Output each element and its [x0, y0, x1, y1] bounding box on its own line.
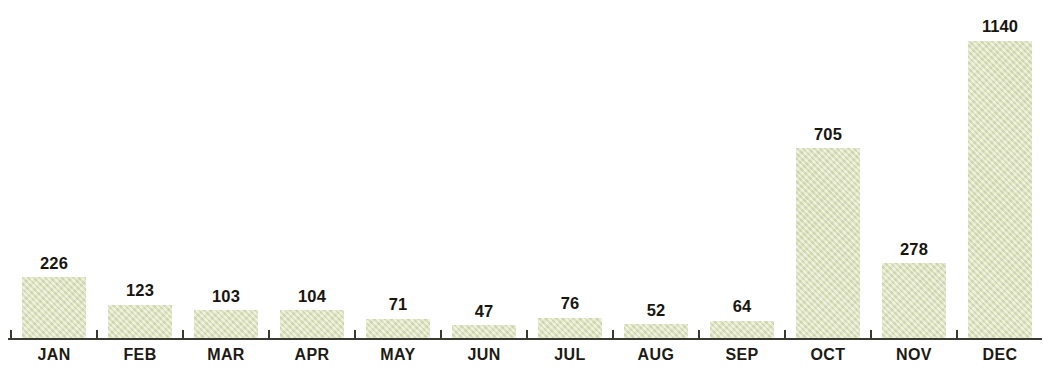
- x-axis-tick-label: SEP: [710, 345, 774, 366]
- bar-value-label: 47: [475, 303, 494, 320]
- bar-group: 278: [882, 18, 946, 338]
- x-axis-tick: [612, 330, 614, 338]
- x-axis-tick-label: MAY: [366, 345, 430, 366]
- bar-value-label: 103: [212, 288, 240, 305]
- bar-value-label: 705: [814, 126, 842, 143]
- bar-group: 52: [624, 18, 688, 338]
- bar-group: 104: [280, 18, 344, 338]
- bar-group: 64: [710, 18, 774, 338]
- bar-rect[interactable]: [968, 41, 1032, 339]
- x-axis-tick: [784, 330, 786, 338]
- bar-value-label: 71: [389, 296, 408, 313]
- bar-value-label: 278: [900, 241, 928, 258]
- bar-rect[interactable]: [796, 148, 860, 338]
- bar-group: 47: [452, 18, 516, 338]
- x-axis-tick: [10, 330, 12, 338]
- plot-area: 22612310310471477652647052781140 JANFEBM…: [0, 0, 1044, 384]
- bar-value-label: 1140: [982, 18, 1018, 35]
- x-axis-tick-label: NOV: [882, 345, 946, 366]
- bar-group: 123: [108, 18, 172, 338]
- x-axis-tick-label: JAN: [22, 345, 86, 366]
- bar-group: 76: [538, 18, 602, 338]
- bar-group: 1140: [968, 18, 1032, 338]
- x-axis-tick: [956, 330, 958, 338]
- x-axis-labels: JANFEBMARAPRMAYJUNJULAUGSEPOCTNOVDEC: [22, 345, 1032, 366]
- x-axis-tick: [96, 330, 98, 338]
- x-axis-line: [8, 338, 1042, 340]
- bar-rect[interactable]: [882, 263, 946, 338]
- bar-value-label: 76: [561, 295, 580, 312]
- bars-layer: 22612310310471477652647052781140: [22, 18, 1032, 338]
- x-axis-tick-label: OCT: [796, 345, 860, 366]
- bar-value-label: 104: [298, 288, 326, 305]
- x-axis-tick-label: DEC: [968, 345, 1032, 366]
- bar-rect[interactable]: [22, 277, 86, 338]
- bar-group: 71: [366, 18, 430, 338]
- bar-value-label: 226: [40, 255, 68, 272]
- x-axis-tick-label: FEB: [108, 345, 172, 366]
- x-axis-tick: [526, 330, 528, 338]
- bar-value-label: 64: [733, 298, 752, 315]
- x-axis-tick: [268, 330, 270, 338]
- x-axis-tick-label: MAR: [194, 345, 258, 366]
- x-axis-tick: [354, 330, 356, 338]
- x-axis-tick: [182, 330, 184, 338]
- bar-group: 103: [194, 18, 258, 338]
- x-axis-tick: [440, 330, 442, 338]
- bar-chart: 22612310310471477652647052781140 JANFEBM…: [0, 0, 1044, 384]
- x-axis-tick-label: AUG: [624, 345, 688, 366]
- x-axis-tick-label: JUL: [538, 345, 602, 366]
- x-axis-tick: [870, 330, 872, 338]
- x-axis-ticks: [0, 330, 1044, 338]
- bar-group: 226: [22, 18, 86, 338]
- x-axis-tick-label: APR: [280, 345, 344, 366]
- bar-value-label: 52: [647, 302, 666, 319]
- bar-group: 705: [796, 18, 860, 338]
- x-axis-tick-label: JUN: [452, 345, 516, 366]
- bar-value-label: 123: [126, 282, 154, 299]
- x-axis-tick: [698, 330, 700, 338]
